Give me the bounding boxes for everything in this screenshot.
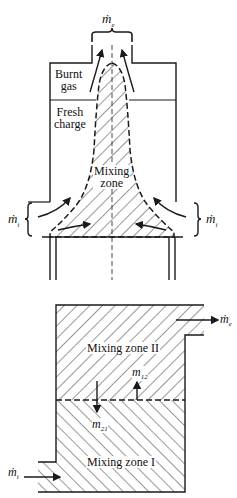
mixing-zone-1-region	[38, 400, 185, 492]
intake-brace-right	[194, 203, 201, 236]
mixing-zone-2-label: Mixing zone II	[86, 342, 160, 354]
scavenging-diagram	[0, 0, 237, 498]
cylinder-cross-section	[25, 28, 201, 280]
burnt-gas-label: Burnt gas	[54, 68, 83, 92]
intake-left-label: ṁi	[8, 212, 19, 229]
exhaust-flow-label: ṁe	[102, 12, 115, 29]
intake-flow-label-bottom: ṁi	[8, 466, 19, 481]
intake-arrow-left-upper	[38, 198, 70, 217]
mixing-zone-1-label: Mixing zone I	[86, 456, 156, 468]
mixing-zone-label: Mixing zone	[93, 165, 130, 189]
fresh-charge-label: Fresh charge	[53, 106, 87, 130]
transfer-21-label: m21	[92, 418, 108, 433]
exhaust-flow-label-bottom: ṁe	[220, 313, 232, 328]
intake-arrow-right-upper	[154, 198, 186, 217]
transfer-12-label: m12	[132, 366, 148, 381]
intake-right-label: ṁi	[206, 212, 217, 229]
exhaust-brace	[92, 28, 132, 42]
intake-brace-left	[25, 203, 32, 236]
